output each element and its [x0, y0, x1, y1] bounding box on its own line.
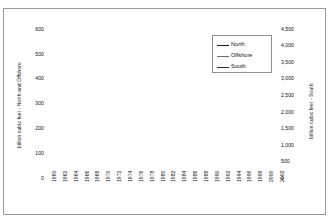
x-axis-tick-label: 1976 [138, 171, 144, 182]
x-axis-tick-label: 1990 [214, 171, 220, 182]
x-axis-tick-label: 1984 [181, 171, 187, 182]
y-axis-right-tick-label: 2,500 [281, 92, 305, 98]
x-axis-tick-label: 2000 [268, 171, 274, 182]
legend-item-offshore: Offshore [217, 51, 252, 61]
legend-label: North [231, 42, 245, 48]
legend-item-north: North [217, 40, 245, 50]
x-axis-tick-label: 1982 [170, 171, 176, 182]
y-axis-left-tick-label: 400 [22, 75, 44, 81]
x-axis-tick-label: 1974 [127, 171, 133, 182]
x-axis-tick-label: 1988 [203, 171, 209, 182]
y-axis-left-tick-label: 600 [22, 26, 44, 32]
x-axis-tick-label: 1996 [246, 171, 252, 182]
x-axis-tick-label: 1964 [73, 171, 79, 182]
y-axis-right-tick-label: 4,500 [281, 26, 305, 32]
chart-figure: billion cubic feet - North and Offshore … [0, 0, 332, 223]
y-axis-right-tick-label: 1,500 [281, 125, 305, 131]
legend-item-south: South [217, 62, 246, 72]
y-axis-right-tick-label: 1,000 [281, 142, 305, 148]
chart-legend: NorthOffshoreSouth [212, 35, 272, 73]
x-axis-tick-label: 1972 [116, 171, 122, 182]
y-axis-left-tick-label: 0 [22, 175, 44, 181]
x-axis-tick-label: 1986 [192, 171, 198, 182]
x-axis-tick-label: 1962 [62, 171, 68, 182]
legend-line-swatch [217, 67, 229, 68]
y-axis-right-tick-label: 3,500 [281, 59, 305, 65]
x-axis-tick-label: 1998 [257, 171, 263, 182]
y-axis-right-tick-label: 4,000 [281, 42, 305, 48]
y-axis-left-tick-label: 500 [22, 51, 44, 57]
legend-line-swatch [217, 45, 229, 46]
x-axis-tick-label: 1992 [225, 171, 231, 182]
x-axis-tick-label: 1970 [105, 171, 111, 182]
x-axis-tick-label: 1968 [94, 171, 100, 182]
legend-line-swatch [217, 56, 229, 57]
figure-border [3, 8, 326, 215]
y-axis-left-tick-label: 100 [22, 150, 44, 156]
x-axis-tick-label: 1978 [149, 171, 155, 182]
y-axis-right-tick-label: 3,000 [281, 75, 305, 81]
y-axis-left-tick-label: 300 [22, 100, 44, 106]
y-axis-left-tick-label: 200 [22, 125, 44, 131]
legend-label: South [231, 64, 246, 70]
x-axis-tick-label: 2002 [279, 171, 285, 182]
y-axis-right-title: billion cubic feet - South [308, 56, 314, 166]
y-axis-right-tick-label: 2,000 [281, 109, 305, 115]
x-axis-tick-label: 1960 [51, 171, 57, 182]
x-axis-tick-label: 1966 [84, 171, 90, 182]
x-axis-tick-label: 1980 [160, 171, 166, 182]
x-axis-tick-label: 1994 [236, 171, 242, 182]
legend-label: Offshore [231, 53, 252, 59]
y-axis-right-tick-label: 500 [281, 158, 305, 164]
